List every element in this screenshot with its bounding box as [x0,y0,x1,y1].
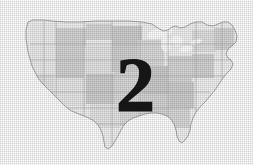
map-figure: 2 [0,0,253,165]
numeral-overlay: 2 [0,0,253,165]
numeral-two: 2 [116,46,155,124]
